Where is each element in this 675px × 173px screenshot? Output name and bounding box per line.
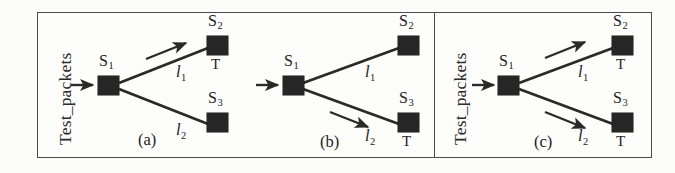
panel-b-label-s2: S2: [399, 12, 413, 30]
panel-c-label-s3: S3: [613, 89, 627, 107]
panel-c-link-label-l2: l2: [578, 126, 588, 146]
panel-a-label-s2: S2: [208, 12, 222, 30]
panel-c-terminal-s3: T: [616, 133, 625, 150]
panel-c-link-label-l1: l1: [578, 62, 588, 82]
panel-a-node-s1: [98, 76, 119, 95]
panel-a-link-label-l1: l1: [176, 62, 186, 82]
panel-c-terminal-s2: T: [616, 56, 625, 73]
panel-b-label-s3: S3: [399, 89, 413, 107]
panel-b-node-s2: [398, 36, 419, 55]
panel-c-label-s2: S2: [613, 12, 627, 30]
panel-b-link-label-l2: l2: [365, 126, 375, 146]
figure-three-panel-network-diagram: Test_packets S1 S2 S3 T l1 l2 (a) S1 S2 …: [0, 0, 675, 173]
panel-c-node-s3: [612, 113, 633, 132]
panel-a-label-s3: S3: [208, 89, 222, 107]
panel-b-terminal-s3: T: [402, 133, 411, 150]
panel-a-terminal-s2: T: [211, 56, 220, 73]
panel-b-caption: (b): [320, 132, 339, 152]
panel-c-test-packets-caption: Test_packets: [450, 52, 471, 145]
panel-a-link-label-l2: l2: [176, 120, 186, 140]
panel-c-node-s2: [612, 36, 633, 55]
panel-a-caption: (a): [138, 130, 156, 150]
panel-a-node-s2: [207, 36, 228, 55]
panel-b-link-label-l1: l1: [365, 62, 375, 82]
panel-b-label-s1: S1: [284, 52, 298, 70]
panel-c-label-s1: S1: [499, 52, 513, 70]
panel-b-node-s3: [398, 113, 419, 132]
panel-b-node-s1: [283, 76, 304, 95]
panel-a-label-s1: S1: [99, 52, 113, 70]
panel-a-test-packets-caption: Test_packets: [55, 52, 76, 145]
panel-c-caption: (c): [534, 132, 552, 152]
panel-a: Test_packets: [37, 12, 235, 158]
panel-c-node-s1: [498, 76, 519, 95]
panel-a-node-s3: [207, 113, 228, 132]
